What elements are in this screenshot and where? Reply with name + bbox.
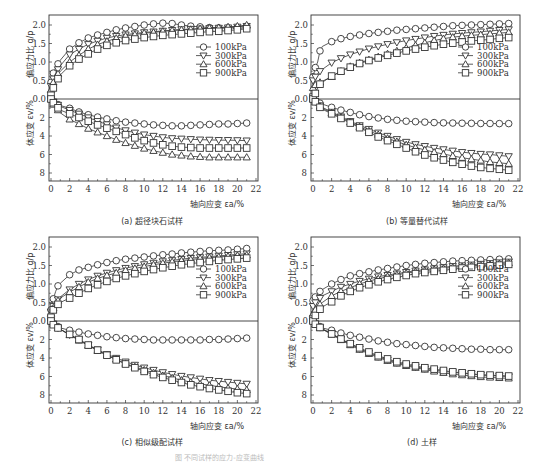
svg-text:900kPa: 900kPa bbox=[477, 290, 509, 300]
svg-text:12: 12 bbox=[157, 184, 168, 194]
svg-text:6: 6 bbox=[302, 150, 307, 160]
svg-text:6: 6 bbox=[40, 150, 45, 160]
chart-panel-d: 02468101214161820222.01.51.00.50.0246810… bbox=[262, 222, 529, 451]
svg-text:22: 22 bbox=[513, 406, 524, 416]
svg-text:14: 14 bbox=[176, 184, 187, 194]
chart-plot: 02468101214161820222.01.51.00.50.0246810… bbox=[262, 222, 529, 451]
svg-text:14: 14 bbox=[438, 406, 449, 416]
svg-text:20: 20 bbox=[494, 406, 505, 416]
svg-text:16: 16 bbox=[457, 406, 468, 416]
svg-text:4: 4 bbox=[86, 406, 91, 416]
svg-text:2: 2 bbox=[67, 406, 72, 416]
y-axis-label-lower: 体应变 εv/% bbox=[24, 322, 35, 368]
legend: 100kPa300kPa600kPa900kPa bbox=[196, 42, 247, 78]
svg-text:18: 18 bbox=[213, 184, 224, 194]
svg-text:18: 18 bbox=[213, 406, 224, 416]
svg-text:6: 6 bbox=[40, 372, 45, 382]
chart-plot: 02468101214161820222.01.51.00.50.0246810… bbox=[262, 0, 529, 229]
y-axis-label-upper: 偏应力比 q/p bbox=[286, 31, 297, 78]
svg-text:22: 22 bbox=[251, 184, 262, 194]
panel-caption: (c) 相似级配试样 bbox=[121, 436, 182, 447]
x-axis-label: 轴向应变 εa/% bbox=[452, 198, 506, 209]
svg-text:900kPa: 900kPa bbox=[215, 290, 247, 300]
svg-text:22: 22 bbox=[251, 406, 262, 416]
svg-text:18: 18 bbox=[475, 406, 486, 416]
x-axis-label: 轴向应变 εa/% bbox=[452, 420, 506, 431]
svg-text:2.0: 2.0 bbox=[294, 20, 308, 30]
svg-text:8: 8 bbox=[40, 390, 45, 400]
svg-text:12: 12 bbox=[419, 406, 430, 416]
svg-text:22: 22 bbox=[513, 184, 524, 194]
panel-caption: (d) 土样 bbox=[407, 436, 437, 447]
svg-text:0: 0 bbox=[48, 406, 53, 416]
legend: 100kPa300kPa600kPa900kPa bbox=[458, 264, 509, 300]
svg-text:2.0: 2.0 bbox=[32, 20, 46, 30]
svg-text:6: 6 bbox=[302, 372, 307, 382]
svg-text:900kPa: 900kPa bbox=[477, 68, 509, 78]
svg-text:2: 2 bbox=[40, 113, 45, 123]
svg-text:6: 6 bbox=[366, 406, 371, 416]
svg-text:900kPa: 900kPa bbox=[215, 68, 247, 78]
svg-text:20: 20 bbox=[232, 184, 243, 194]
svg-text:8: 8 bbox=[302, 390, 307, 400]
svg-text:6: 6 bbox=[104, 184, 109, 194]
legend: 100kPa300kPa600kPa900kPa bbox=[196, 264, 247, 300]
y-axis-label-lower: 体应变 εv/% bbox=[286, 322, 297, 368]
svg-text:2.0: 2.0 bbox=[32, 242, 46, 252]
svg-text:0: 0 bbox=[310, 406, 315, 416]
svg-text:12: 12 bbox=[157, 406, 168, 416]
chart-plot: 02468101214161820222.01.51.00.50.0246810… bbox=[0, 222, 267, 451]
svg-text:8: 8 bbox=[302, 168, 307, 178]
svg-text:10: 10 bbox=[401, 184, 412, 194]
svg-text:18: 18 bbox=[475, 184, 486, 194]
svg-text:6: 6 bbox=[366, 184, 371, 194]
svg-text:2: 2 bbox=[329, 406, 334, 416]
chart-panel-b: 02468101214161820222.01.51.00.50.0246810… bbox=[262, 0, 529, 229]
x-axis-label: 轴向应变 εa/% bbox=[190, 198, 244, 209]
y-axis-label-lower: 体应变 εv/% bbox=[24, 100, 35, 146]
svg-text:20: 20 bbox=[232, 406, 243, 416]
svg-text:8: 8 bbox=[385, 184, 390, 194]
svg-text:6: 6 bbox=[104, 406, 109, 416]
y-axis-label-upper: 偏应力比 q/p bbox=[24, 253, 35, 300]
svg-text:4: 4 bbox=[348, 184, 353, 194]
svg-text:4: 4 bbox=[86, 184, 91, 194]
svg-text:2: 2 bbox=[302, 335, 307, 345]
svg-text:8: 8 bbox=[385, 406, 390, 416]
svg-text:2: 2 bbox=[329, 184, 334, 194]
svg-text:14: 14 bbox=[176, 406, 187, 416]
y-axis-label-upper: 偏应力比 q/p bbox=[24, 31, 35, 78]
svg-text:20: 20 bbox=[494, 184, 505, 194]
svg-text:8: 8 bbox=[123, 406, 128, 416]
svg-text:10: 10 bbox=[139, 184, 150, 194]
svg-text:12: 12 bbox=[419, 184, 430, 194]
svg-text:16: 16 bbox=[457, 184, 468, 194]
svg-text:16: 16 bbox=[195, 184, 206, 194]
svg-text:4: 4 bbox=[40, 353, 45, 363]
x-axis-label: 轴向应变 εa/% bbox=[190, 420, 244, 431]
y-axis-label-upper: 偏应力比 q/p bbox=[286, 253, 297, 300]
svg-text:8: 8 bbox=[123, 184, 128, 194]
chart-plot: 02468101214161820222.01.51.00.50.0246810… bbox=[0, 0, 267, 229]
svg-text:2.0: 2.0 bbox=[294, 242, 308, 252]
chart-panel-a: 02468101214161820222.01.51.00.50.0246810… bbox=[0, 0, 267, 229]
svg-text:4: 4 bbox=[302, 353, 307, 363]
svg-text:2: 2 bbox=[302, 113, 307, 123]
svg-text:4: 4 bbox=[348, 406, 353, 416]
svg-text:2: 2 bbox=[67, 184, 72, 194]
y-axis-label-lower: 体应变 εv/% bbox=[286, 100, 297, 146]
svg-text:2: 2 bbox=[40, 335, 45, 345]
svg-text:0: 0 bbox=[310, 184, 315, 194]
svg-text:4: 4 bbox=[302, 131, 307, 141]
legend: 100kPa300kPa600kPa900kPa bbox=[458, 42, 509, 78]
svg-text:4: 4 bbox=[40, 131, 45, 141]
chart-panel-c: 02468101214161820222.01.51.00.50.0246810… bbox=[0, 222, 267, 451]
figure-caption-faint: 图 不同试样的应力-应变曲线 bbox=[175, 452, 264, 462]
svg-text:0: 0 bbox=[48, 184, 53, 194]
svg-text:10: 10 bbox=[401, 406, 412, 416]
svg-text:16: 16 bbox=[195, 406, 206, 416]
svg-text:14: 14 bbox=[438, 184, 449, 194]
svg-text:8: 8 bbox=[40, 168, 45, 178]
svg-text:10: 10 bbox=[139, 406, 150, 416]
